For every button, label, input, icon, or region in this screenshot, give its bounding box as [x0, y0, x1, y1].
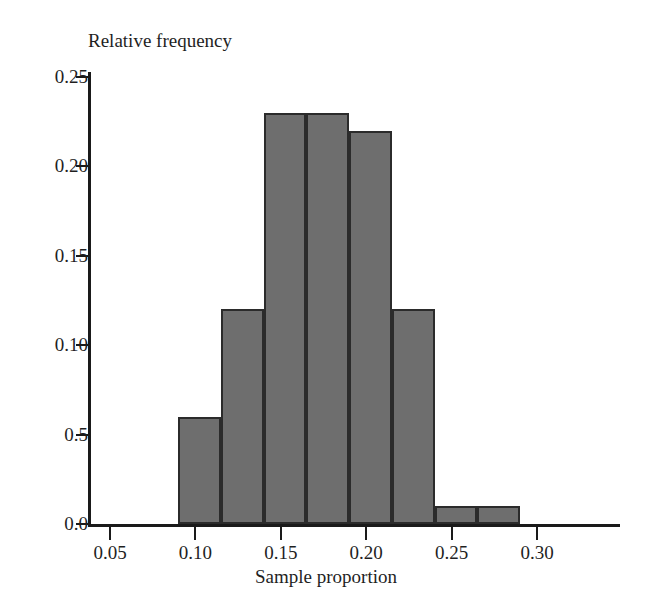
x-tick-mark	[109, 527, 111, 540]
plot-area: 0.250.200.150.100.50.0 0.050.100.150.200…	[0, 0, 652, 616]
y-tick-label: 0.15	[24, 246, 88, 265]
y-tick-label: 0.10	[24, 335, 88, 354]
x-tick-mark	[536, 527, 538, 540]
x-axis-title: Sample proportion	[0, 566, 652, 588]
y-tick-label: 0.25	[24, 67, 88, 86]
x-tick-label: 0.20	[326, 542, 406, 564]
y-tick-label: 0.20	[24, 156, 88, 175]
x-axis-line	[88, 524, 620, 527]
histogram-bar	[392, 309, 435, 524]
histogram-bar	[264, 113, 307, 524]
histogram-figure: Relative frequency 0.250.200.150.100.50.…	[0, 0, 652, 616]
x-tick-mark	[194, 527, 196, 540]
x-tick-label: 0.10	[155, 542, 235, 564]
histogram-bar	[349, 131, 392, 524]
y-tick-label: 0.0	[24, 514, 88, 533]
x-tick-mark	[451, 527, 453, 540]
x-tick-label: 0.05	[70, 542, 150, 564]
histogram-bar	[435, 506, 478, 524]
x-tick-label: 0.25	[412, 542, 492, 564]
x-tick-label: 0.15	[241, 542, 321, 564]
x-tick-mark	[365, 527, 367, 540]
histogram-bar	[221, 309, 264, 524]
x-tick-label: 0.30	[497, 542, 577, 564]
y-tick-label: 0.5	[24, 425, 88, 444]
histogram-bar	[477, 506, 520, 524]
x-tick-mark	[280, 527, 282, 540]
y-axis-line	[88, 72, 91, 527]
histogram-bar	[306, 113, 349, 524]
histogram-bar	[178, 417, 221, 524]
